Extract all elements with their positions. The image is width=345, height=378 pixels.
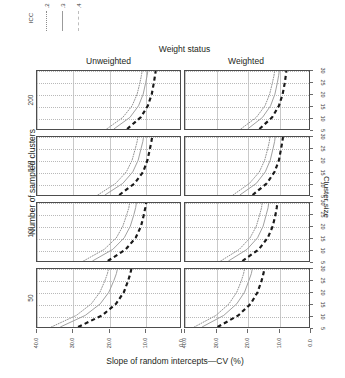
y-tick-label: 30: [318, 63, 327, 79]
panel-100-unweighted[interactable]: [36, 202, 181, 262]
facet-row: 15051015202530: [36, 136, 310, 196]
series-layer: [37, 137, 180, 195]
x-tick-label: 30.0: [210, 332, 222, 354]
facet-column-strip-unweighted: Unweighted: [36, 56, 181, 66]
y-tick-mark: [310, 214, 313, 215]
series-layer: [185, 203, 309, 261]
panel-100-weighted[interactable]: [184, 202, 310, 262]
legend-entry-icc-4[interactable]: .4: [72, 0, 86, 36]
x-tick-label: 10.0: [139, 332, 151, 354]
series-layer: [185, 137, 309, 195]
y-tick-mark: [310, 148, 313, 149]
x-tick-label: 20.0: [241, 332, 253, 354]
series-line-icc-2: [241, 71, 275, 129]
y-tick-mark: [310, 238, 313, 239]
x-tick-label: 30.0: [66, 332, 78, 354]
y-tick-label: 30: [318, 129, 327, 145]
panel-50-weighted[interactable]: [184, 268, 310, 328]
series-layer: [37, 203, 180, 261]
series-line-icc-4: [127, 71, 156, 129]
panel-150-weighted[interactable]: [184, 136, 310, 196]
x-tick-label: 20.0: [103, 332, 115, 354]
y-tick-mark: [310, 118, 313, 119]
x-tick-label: 0.0: [304, 332, 316, 354]
y-tick-label: 30: [318, 195, 327, 211]
x-axis-title: Slope of random intercepts—CV (%): [35, 356, 315, 366]
x-tick-label: 10.0: [273, 332, 285, 354]
series-line-icc-3: [248, 71, 280, 129]
series-layer: [185, 71, 309, 129]
y-tick-mark: [310, 226, 313, 227]
legend-line-sample-solid: [62, 11, 63, 31]
facet-row: 20051015202530: [36, 70, 310, 130]
y-tick-mark: [310, 250, 313, 251]
legend-entry-icc-2[interactable]: .2: [40, 0, 54, 36]
facet-row: 5051015202530: [36, 268, 310, 328]
y-tick-mark: [310, 184, 313, 185]
series-line-icc-2: [194, 269, 244, 327]
y-tick-label: 30: [318, 261, 327, 277]
y-tick-mark: [310, 304, 313, 305]
panel-200-unweighted[interactable]: [36, 70, 181, 130]
facet-column-super-title-text: Weight status: [159, 44, 210, 54]
series-line-icc-3: [60, 269, 117, 327]
y-tick-mark: [310, 136, 313, 137]
legend-title: ICC: [25, 7, 37, 29]
panel-50-unweighted[interactable]: [36, 268, 181, 328]
y-tick-mark: [310, 160, 313, 161]
icc-legend: ICC .2 .3 .4: [24, 0, 84, 36]
series-layer: [185, 269, 309, 327]
y-tick-mark: [310, 94, 313, 95]
facet-row: 10051015202530: [36, 202, 310, 262]
y-tick-mark: [310, 70, 313, 71]
facet-column-strip-weighted: Weighted: [181, 56, 311, 66]
x-tick-label: 40.0: [30, 332, 42, 354]
legend-label: .3: [58, 0, 68, 14]
legend-label: .4: [74, 0, 84, 14]
panel-200-weighted[interactable]: [184, 70, 310, 130]
series-layer: [37, 269, 180, 327]
y-tick-mark: [310, 292, 313, 293]
series-line-icc-3: [202, 269, 252, 327]
facet-column-super-title: Weight status: [0, 44, 345, 54]
y-tick-mark: [310, 196, 313, 197]
y-tick-mark: [310, 280, 313, 281]
series-line-icc-2: [107, 71, 142, 129]
y-tick-mark: [310, 106, 313, 107]
legend-line-sample-dashed: [78, 11, 79, 31]
y-tick-mark: [310, 268, 313, 269]
y-tick-mark: [310, 172, 313, 173]
y-tick-mark: [310, 262, 313, 263]
panel-150-unweighted[interactable]: [36, 136, 181, 196]
y-tick-mark: [310, 202, 313, 203]
x-tick-label: 0.0: [175, 332, 187, 354]
facet-grid: 2005101520253015051015202530100510152025…: [36, 70, 310, 328]
legend-line-sample-dotted: [46, 11, 47, 31]
legend-label: .2: [42, 0, 52, 14]
legend-entry-icc-3[interactable]: .3: [56, 0, 70, 36]
series-layer: [37, 71, 180, 129]
y-tick-mark: [310, 82, 313, 83]
y-tick-mark: [310, 316, 313, 317]
y-tick-mark: [310, 130, 313, 131]
x-axis: 40.040.030.030.020.020.010.010.00.00.0: [36, 329, 310, 355]
